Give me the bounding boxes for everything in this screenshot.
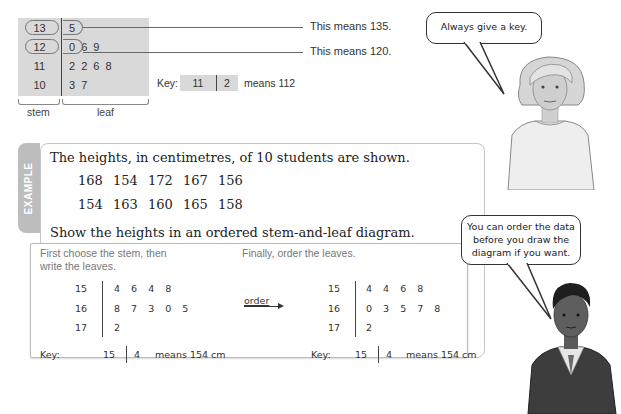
leaf-values: 2 2 6 8 [69,60,112,72]
step2-leaves: 4 4 6 8 [366,283,423,294]
step2-key-stem: 15 [355,349,367,360]
teacher-bubble-tail [458,42,518,98]
step2-key-leaf: 4 [386,349,392,360]
stem-leaf-row: 10 3 7 [18,76,149,95]
step1-key-leaf: 4 [134,349,140,360]
step1-key-meaning: means 154 cm [155,349,226,360]
stem-value: 10 [18,79,61,91]
data-value: 156 [218,173,253,188]
step2-key-label: Key: [311,349,331,360]
stem-leaf-row: 11 2 2 6 8 [18,57,149,76]
leaf-label: leaf [97,106,114,118]
highlight-leaf-0 [63,39,83,54]
data-value: 168 [78,173,113,188]
leaf-values: 3 7 [69,79,87,91]
step2-key-meaning: means 154 cm [406,349,477,360]
stem-label: stem [27,106,50,118]
step1-heading-line: write the leaves. [40,260,167,273]
step1-leaves: 4 6 4 8 [114,283,171,294]
stem-value: 11 [18,60,61,72]
step1-key-divider [126,346,127,363]
example-tab-label: EXAMPLE [24,162,35,214]
step1-leaves: 8 7 3 0 5 [114,303,188,314]
data-value: 172 [148,173,183,188]
step1-key-stem: 15 [103,349,115,360]
step1-heading: First choose the stem, then write the le… [40,247,167,273]
pointer-line-135 [83,27,303,28]
step2-key-divider [378,346,379,363]
leaf-brace [62,99,149,105]
annotation-135: This means 135. [310,20,391,32]
order-label: order [244,295,269,306]
student-bubble-line: You can order the data [462,220,580,233]
step1-key-label: Key: [40,349,60,360]
data-value: 167 [183,173,218,188]
teacher-speech-bubble: Always give a key. [426,12,542,44]
order-arrow [244,306,280,307]
step1-divider [102,281,103,337]
data-value: 163 [113,197,148,212]
key-divider [216,75,217,91]
data-row: 168154172167156 [78,173,253,188]
annotation-120: This means 120. [310,45,391,57]
teacher-bubble-text: Always give a key. [441,21,528,32]
highlight-stem-12 [25,39,59,54]
order-arrowhead-icon [278,303,284,309]
step2-leaves: 2 [366,322,372,333]
stem-leaf-divider [61,18,62,96]
step1-heading-line: First choose the stem, then [40,247,167,260]
data-row: 154163160165158 [78,197,253,212]
student-bubble-line: diagram if you want. [462,246,580,259]
key-meaning: means 112 [244,77,295,89]
student-bubble-line: before you draw the [462,233,580,246]
step1-stem: 17 [75,322,95,333]
step2-stem: 17 [328,322,348,333]
step1-stem: 15 [75,283,95,294]
step2-leaves: 0 3 5 7 8 [366,303,440,314]
data-value: 165 [183,197,218,212]
example-task: Show the heights in an ordered stem-and-… [50,225,415,240]
step2-stem: 15 [328,283,348,294]
student-speech-bubble: You can order the data before you draw t… [461,215,581,265]
step2-stem: 16 [328,303,348,314]
stem-brace [18,99,60,105]
data-value: 154 [78,197,113,212]
step2-heading: Finally, order the leaves. [242,247,356,260]
data-value: 160 [148,197,183,212]
highlight-leaf-5 [63,20,83,35]
data-value: 154 [113,173,148,188]
data-value: 158 [218,197,253,212]
key-label: Key: [157,77,178,89]
highlight-stem-13 [25,20,59,35]
step1-leaves: 2 [114,322,120,333]
key-leaf: 2 [224,77,230,89]
pointer-line-120 [83,52,303,53]
step1-stem: 16 [75,303,95,314]
student-bubble-tail [505,263,555,323]
example-intro: The heights, in centimetres, of 10 stude… [50,150,410,165]
key-stem: 11 [186,77,210,89]
step2-divider [355,281,356,337]
